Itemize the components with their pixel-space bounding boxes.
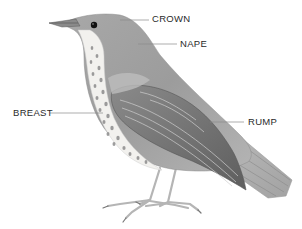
- bird-anatomy-diagram: CROWN NAPE BREAST RUMP: [0, 0, 302, 229]
- crown-label: CROWN: [152, 14, 190, 24]
- legs: [108, 168, 198, 218]
- nape-label: NAPE: [180, 39, 207, 49]
- rump-label: RUMP: [248, 117, 277, 127]
- eye: [91, 22, 97, 28]
- breast-label: BREAST: [13, 108, 53, 118]
